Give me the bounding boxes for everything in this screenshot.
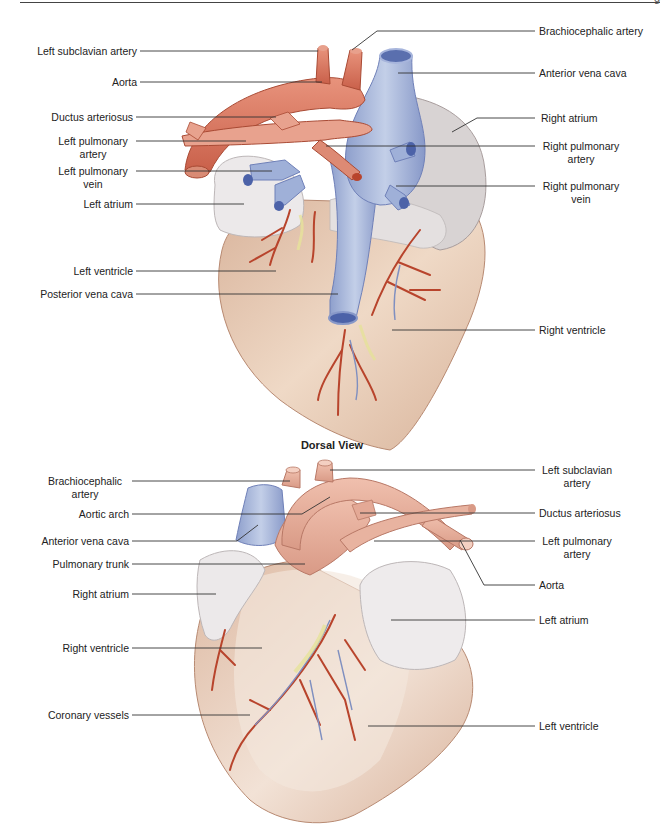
- label-right-atrium: Right atrium: [72, 588, 129, 601]
- label-brachiocephalic-artery: Brachiocephalic artery: [40, 475, 130, 500]
- label-anterior-vena-cava: Anterior vena cava: [539, 67, 627, 80]
- label-left-pulmonary-vein: Left pulmonary vein: [52, 165, 134, 190]
- label-right-atrium: Right atrium: [541, 112, 598, 125]
- label-left-ventricle: Left ventricle: [73, 265, 133, 278]
- label-coronary-vessels: Coronary vessels: [48, 709, 129, 722]
- label-right-ventricle: Right ventricle: [62, 642, 129, 655]
- label-left-ventricle: Left ventricle: [539, 720, 599, 733]
- label-aorta: Aorta: [112, 76, 137, 89]
- label-aortic-arch: Aortic arch: [79, 508, 129, 521]
- label-left-subclavian-artery: Left subclavian artery: [37, 45, 137, 58]
- label-left-subclavian-artery: Left subclavian artery: [537, 464, 617, 489]
- label-left-atrium: Left atrium: [539, 614, 589, 627]
- label-left-atrium: Left atrium: [83, 198, 133, 211]
- heart-illustrations: [0, 0, 664, 830]
- label-ductus-arteriosus: Ductus arteriosus: [539, 507, 621, 520]
- label-pulmonary-trunk: Pulmonary trunk: [53, 558, 129, 571]
- label-right-ventricle: Right ventricle: [539, 324, 606, 337]
- label-brachiocephalic-artery: Brachiocephalic artery: [539, 25, 643, 38]
- label-left-pulmonary-artery: Left pulmonary artery: [52, 135, 134, 160]
- dorsal-heart: [182, 45, 486, 450]
- label-anterior-vena-cava: Anterior vena cava: [41, 535, 129, 548]
- label-ductus-arteriosus: Ductus arteriosus: [51, 111, 133, 124]
- dorsal-view-caption: Dorsal View: [0, 439, 664, 451]
- label-aorta: Aorta: [539, 579, 564, 592]
- label-right-pulmonary-vein: Right pulmonary vein: [539, 180, 623, 205]
- label-left-pulmonary-artery: Left pulmonary artery: [537, 535, 617, 560]
- label-posterior-vena-cava: Posterior vena cava: [40, 288, 133, 301]
- label-right-pulmonary-artery: Right pulmonary artery: [539, 140, 623, 165]
